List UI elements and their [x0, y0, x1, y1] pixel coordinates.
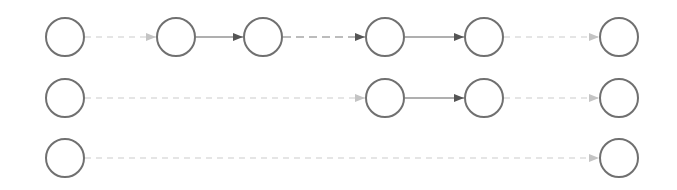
edges-layer	[85, 37, 599, 158]
node-r2c4	[366, 79, 404, 117]
state-diagram	[0, 0, 677, 190]
node-r3c1	[46, 139, 84, 177]
node-r1c2	[157, 18, 195, 56]
node-r1c5	[465, 18, 503, 56]
node-r1c3	[244, 18, 282, 56]
node-r1c6	[600, 18, 638, 56]
node-r1c1	[46, 18, 84, 56]
node-r2c5	[465, 79, 503, 117]
node-r1c4	[366, 18, 404, 56]
node-r2c1	[46, 79, 84, 117]
node-r2c6	[600, 79, 638, 117]
node-r3c6	[600, 139, 638, 177]
